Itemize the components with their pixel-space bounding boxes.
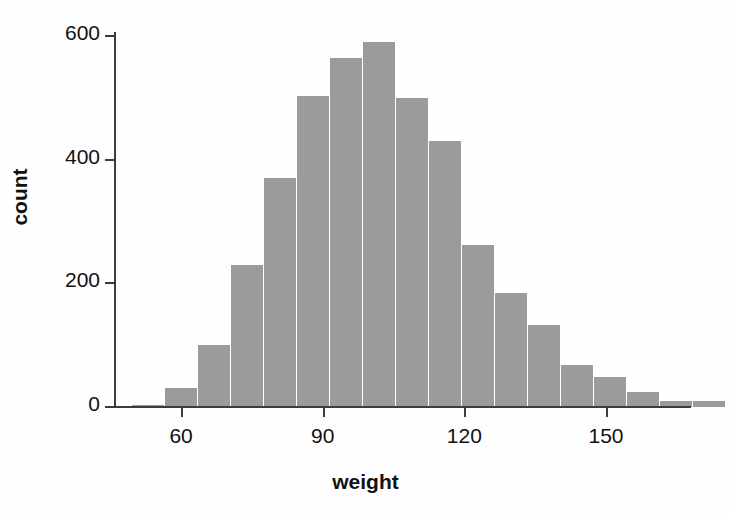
y-axis-tick-label: 0: [20, 392, 100, 416]
histogram-bar: [264, 178, 297, 407]
x-axis-tick-label: 60: [141, 424, 221, 448]
x-axis-tick: [464, 408, 466, 417]
histogram-bar: [528, 325, 561, 407]
x-axis-title: weight: [0, 470, 731, 494]
histogram-bar: [165, 388, 198, 407]
y-axis-tick: [105, 159, 114, 161]
histogram-bar: [198, 345, 231, 407]
y-axis-tick-label: 400: [20, 145, 100, 169]
histogram-bar: [561, 365, 594, 407]
histogram-bar: [462, 245, 495, 407]
x-axis-line: [115, 406, 691, 408]
histogram-bar: [297, 96, 330, 407]
y-axis-tick: [105, 406, 114, 408]
histogram-bar: [363, 42, 396, 407]
y-axis-line: [114, 32, 116, 408]
y-axis-title: count: [8, 137, 32, 257]
x-axis-tick-label: 150: [566, 424, 646, 448]
histogram-bar: [594, 377, 627, 407]
x-axis-tick: [606, 408, 608, 417]
y-axis-tick: [105, 282, 114, 284]
histogram-bar: [330, 58, 363, 407]
x-axis-tick-label: 90: [283, 424, 363, 448]
x-axis-tick: [323, 408, 325, 417]
y-axis-tick-labels: 0200400600: [15, 0, 100, 514]
histogram-bar: [495, 293, 528, 407]
histogram-figure: 6090120150 0200400600 weight count: [0, 0, 731, 514]
histogram-bar: [693, 401, 726, 407]
histogram-bar: [627, 392, 660, 407]
x-axis-tick: [181, 408, 183, 417]
x-axis-tick-label: 120: [424, 424, 504, 448]
y-axis-tick-label: 600: [20, 21, 100, 45]
histogram-bar: [429, 141, 462, 407]
y-axis-tick-label: 200: [20, 268, 100, 292]
y-axis-tick: [105, 35, 114, 37]
histogram-bar: [231, 265, 264, 407]
plot-area: [115, 20, 691, 407]
histogram-bar: [396, 98, 429, 407]
